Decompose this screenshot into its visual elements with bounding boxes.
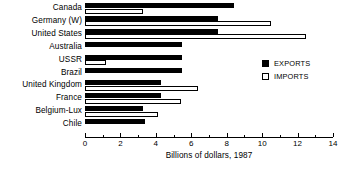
chart-row: Canada	[0, 3, 360, 15]
legend-label-exports: EXPORTS	[274, 58, 310, 69]
bar-exports	[85, 42, 182, 47]
x-tick-minor	[244, 135, 245, 138]
chart-row: Australia	[0, 42, 360, 54]
category-label: USSR	[0, 54, 82, 66]
x-tick	[227, 133, 228, 137]
x-tick	[298, 133, 299, 137]
category-label: France	[0, 92, 82, 104]
bar-exports	[85, 80, 161, 85]
category-label: Belgium-Lux	[0, 105, 82, 117]
category-label: Chile	[0, 118, 82, 130]
category-label: Canada	[0, 2, 82, 14]
chart-row: Germany (W)	[0, 16, 360, 28]
x-tick	[262, 133, 263, 137]
bar-imports	[85, 60, 106, 65]
x-tick-label: 10	[250, 139, 274, 149]
bar-exports	[85, 68, 182, 73]
chart-row: United States	[0, 29, 360, 41]
category-label: Australia	[0, 41, 82, 53]
bar-imports	[85, 99, 181, 104]
x-tick	[191, 133, 192, 137]
chart-row: Belgium-Lux	[0, 106, 360, 118]
x-tick-label: 2	[108, 139, 132, 149]
bar-chart: CanadaGermany (W)United StatesAustraliaU…	[0, 0, 360, 171]
x-tick-minor	[103, 135, 104, 138]
x-tick-label: 0	[73, 139, 97, 149]
x-tick-label: 14	[321, 139, 345, 149]
x-tick-minor	[209, 135, 210, 138]
legend-label-imports: IMPORTS	[274, 71, 309, 82]
bar-exports	[85, 119, 145, 124]
bar-imports	[85, 86, 198, 91]
chart-row: France	[0, 93, 360, 105]
bar-imports	[85, 21, 271, 26]
bar-exports	[85, 55, 182, 60]
bar-imports	[85, 34, 306, 39]
bar-exports	[85, 93, 161, 98]
chart-row: Chile	[0, 119, 360, 131]
x-tick	[333, 133, 334, 137]
category-label: United Kingdom	[0, 79, 82, 91]
x-tick-minor	[138, 135, 139, 138]
x-tick	[85, 133, 86, 137]
x-tick-label: 12	[286, 139, 310, 149]
category-label: United States	[0, 28, 82, 40]
legend-swatch-imports	[262, 73, 269, 80]
x-tick-minor	[174, 135, 175, 138]
x-tick	[156, 133, 157, 137]
bar-imports	[85, 112, 158, 117]
x-tick-minor	[315, 135, 316, 138]
x-tick	[120, 133, 121, 137]
category-label: Germany (W)	[0, 15, 82, 27]
x-tick-minor	[280, 135, 281, 138]
x-tick-label: 4	[144, 139, 168, 149]
category-label: Brazil	[0, 67, 82, 79]
x-tick-label: 8	[215, 139, 239, 149]
bar-exports	[85, 16, 218, 21]
bar-exports	[85, 3, 234, 8]
x-axis-title: Billions of dollars, 1987	[85, 151, 333, 161]
bar-exports	[85, 106, 143, 111]
legend-swatch-exports	[262, 60, 269, 67]
bar-exports	[85, 29, 218, 34]
chart-row: United Kingdom	[0, 80, 360, 92]
bar-imports	[85, 9, 143, 14]
x-tick-label: 6	[179, 139, 203, 149]
